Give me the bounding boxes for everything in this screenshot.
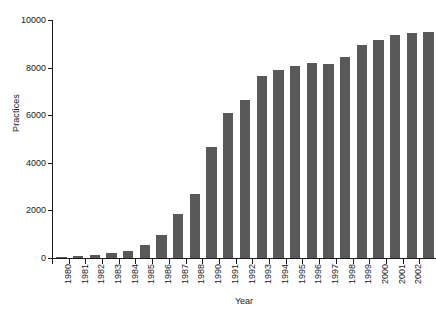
x-tick-label: 1995: [298, 264, 307, 284]
x-tick-label: 1998: [348, 264, 357, 284]
x-tick-label: 1988: [197, 264, 206, 284]
x-tick-label: 1984: [131, 264, 140, 284]
x-tick-label: 1987: [181, 264, 190, 284]
x-tick-label: 1999: [364, 264, 373, 284]
bar: [240, 100, 250, 258]
bar: [273, 70, 283, 258]
bar: [190, 194, 200, 258]
bar: [123, 251, 133, 258]
y-tick-label: 6000: [26, 111, 46, 120]
x-tick-label: 1983: [114, 264, 123, 284]
bar: [323, 64, 333, 258]
caption-remnant: [4, 309, 234, 314]
x-tick-label: 1991: [231, 264, 240, 284]
y-tick-label: 0: [41, 254, 46, 263]
bar: [340, 57, 350, 258]
x-axis-tick-labels: 1980198119821983198419851986198719881990…: [52, 264, 436, 298]
bar: [307, 63, 317, 258]
x-axis-title: Year: [52, 296, 436, 306]
x-tick-label: 1996: [314, 264, 323, 284]
x-tick-label: 1981: [81, 264, 90, 284]
y-axis-ticks: 0200040006000800010000: [0, 0, 52, 316]
x-tick-label: 1997: [331, 264, 340, 284]
bar: [357, 45, 367, 258]
x-tick-label: 1990: [214, 264, 223, 284]
y-tick-label: 8000: [26, 63, 46, 72]
bar: [390, 35, 400, 258]
x-tick-label: 1986: [164, 264, 173, 284]
plot-area: [52, 20, 436, 258]
bar: [173, 214, 183, 258]
bar: [257, 76, 267, 258]
bar: [156, 235, 166, 258]
bar: [290, 66, 300, 258]
bar: [140, 245, 150, 258]
y-tick-label: 4000: [26, 158, 46, 167]
x-tick-label: 1994: [281, 264, 290, 284]
x-tick-label: 1993: [264, 264, 273, 284]
bar: [373, 40, 383, 258]
x-tick-label: 1992: [248, 264, 257, 284]
y-tick-label: 10000: [21, 16, 46, 25]
x-tick-label: 2002: [414, 264, 423, 284]
x-tick-label: 1982: [97, 264, 106, 284]
bar: [206, 147, 216, 258]
x-tick-label: 1980: [64, 264, 73, 284]
x-tick-label: 1985: [147, 264, 156, 284]
bar: [423, 32, 433, 258]
bar: [407, 33, 417, 258]
x-tick-label: 2000: [381, 264, 390, 284]
y-tick-label: 2000: [26, 206, 46, 215]
bar-series: [53, 20, 436, 258]
x-tick-label: 2001: [398, 264, 407, 284]
bar-chart-figure: Practices 0200040006000800010000 1980198…: [0, 0, 436, 316]
bar: [223, 113, 233, 258]
